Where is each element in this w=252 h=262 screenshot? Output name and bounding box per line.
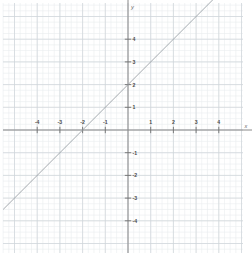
y-tick-label: -3 (133, 195, 138, 201)
x-tick-label: -4 (35, 119, 40, 125)
y-tick-label: 3 (133, 59, 136, 65)
x-tick-label: 3 (195, 119, 198, 125)
y-tick-label: 4 (133, 36, 136, 42)
x-tick-label: -1 (103, 119, 108, 125)
x-tick-label: 1 (149, 119, 152, 125)
y-tick-label: -1 (133, 150, 138, 156)
coordinate-plane-graph: -4-3-2-11234 -4-3-2-11234 x y (0, 0, 252, 262)
y-tick-label: 1 (133, 104, 136, 110)
x-tick-label: 4 (217, 119, 220, 125)
x-tick-label: -2 (80, 119, 85, 125)
x-axis-label: x (244, 123, 248, 129)
y-tick-label: -2 (133, 172, 138, 178)
graph-canvas: -4-3-2-11234 -4-3-2-11234 x y (0, 0, 252, 262)
y-tick-label: 2 (133, 82, 136, 88)
x-tick-label: -3 (58, 119, 63, 125)
x-tick-label: 2 (172, 119, 175, 125)
y-tick-label: -4 (133, 218, 138, 224)
